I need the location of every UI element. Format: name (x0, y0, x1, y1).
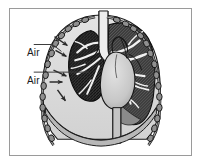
label-air-lower: Air (27, 76, 40, 86)
figure-root: Air Air (0, 0, 206, 168)
figure-frame: Air Air (9, 8, 192, 156)
label-air-upper: Air (27, 48, 40, 58)
